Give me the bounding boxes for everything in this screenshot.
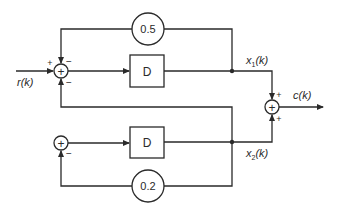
- x2-label-arg: (k): [255, 147, 268, 159]
- x2-label: x2(k): [245, 147, 269, 161]
- output-label: c(k): [293, 89, 312, 101]
- sum3-bottom-sign: +: [276, 114, 281, 124]
- x1-label-arg: (k): [255, 54, 268, 66]
- x2-output-line: [164, 115, 272, 142]
- sum3-symbol: +: [268, 101, 275, 115]
- gain1-feedback-right: [164, 29, 232, 71]
- sum2-symbol: +: [57, 137, 64, 151]
- x1-output-line: [164, 71, 272, 99]
- delay-block-1-label: D: [143, 65, 152, 79]
- block-diagram: + + + D D 0.5 0.2 + − − − + + r(k) c(k) …: [0, 0, 338, 212]
- x2-branch-dot: [230, 140, 234, 144]
- sum1-input-sign: +: [47, 58, 52, 68]
- gain-2-label: 0.2: [140, 180, 155, 192]
- x1-branch-dot: [230, 69, 234, 73]
- x1-label: x1(k): [245, 54, 269, 68]
- sum1-top-sign: −: [66, 56, 72, 67]
- sum2-bottom-sign: −: [66, 148, 72, 159]
- sum1-symbol: +: [57, 65, 64, 79]
- gain-1-label: 0.5: [140, 23, 155, 35]
- sum3-top-sign: +: [276, 90, 281, 100]
- sum1-bottom-sign: −: [66, 77, 72, 88]
- gain2-feedback-right: [164, 142, 232, 186]
- delay-block-2-label: D: [143, 136, 152, 150]
- input-label: r(k): [17, 76, 34, 88]
